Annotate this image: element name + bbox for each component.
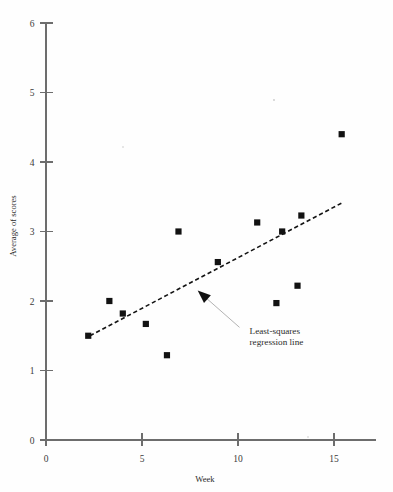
data-point-marker <box>294 283 300 289</box>
data-point-marker <box>106 298 112 304</box>
scan-speck <box>122 146 124 148</box>
scan-speck <box>307 436 309 438</box>
y-tick-label-5: 5 <box>30 88 35 98</box>
y-tick-label-3: 3 <box>30 227 35 237</box>
data-point-marker <box>254 219 260 225</box>
data-point-marker <box>298 212 304 218</box>
plot-canvas: 6 5 4 3 2 1 0 0 5 10 15 Week Average of … <box>0 0 393 492</box>
annotation-arrowhead-icon <box>198 291 211 303</box>
y-tick-label-4: 4 <box>30 158 35 168</box>
x-tick-label-15: 15 <box>329 454 339 464</box>
x-tick-label-5: 5 <box>140 454 145 464</box>
annotation-text-line-1: Least-squares <box>250 326 301 336</box>
least-squares-regression-line <box>90 202 343 335</box>
y-tick-label-1: 1 <box>30 366 35 376</box>
data-point-marker <box>339 131 345 137</box>
data-point-marker <box>164 352 170 358</box>
data-point-marker <box>175 228 181 234</box>
data-point-marker <box>143 321 149 327</box>
scan-speck <box>273 99 275 101</box>
data-point-layer <box>85 131 345 358</box>
y-axis-title: Average of scores <box>8 195 18 257</box>
annotation-text-line-2: regression line <box>250 337 304 347</box>
annotation-leader-line <box>206 298 240 328</box>
data-point-marker <box>215 259 221 265</box>
y-tick-label-6: 6 <box>30 19 35 29</box>
x-tick-label-10: 10 <box>233 454 243 464</box>
data-point-marker <box>273 300 279 306</box>
data-point-marker <box>120 310 126 316</box>
scatter-chart-figure: 6 5 4 3 2 1 0 0 5 10 15 Week Average of … <box>0 0 393 492</box>
x-tick-label-0: 0 <box>44 454 49 464</box>
data-point-marker <box>85 333 91 339</box>
y-tick-label-2: 2 <box>30 297 35 307</box>
y-tick-label-0: 0 <box>30 436 35 446</box>
data-point-marker <box>279 228 285 234</box>
x-axis-title: Week <box>195 474 215 484</box>
